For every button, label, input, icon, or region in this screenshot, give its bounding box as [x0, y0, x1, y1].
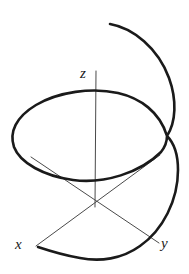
figure-canvas: x y z [0, 0, 189, 274]
helix-diagram-svg [0, 0, 189, 274]
z-axis-label: z [80, 66, 86, 81]
x-axis-label: x [15, 237, 22, 252]
x-axis-line [36, 155, 160, 246]
y-axis-label: y [161, 236, 168, 251]
